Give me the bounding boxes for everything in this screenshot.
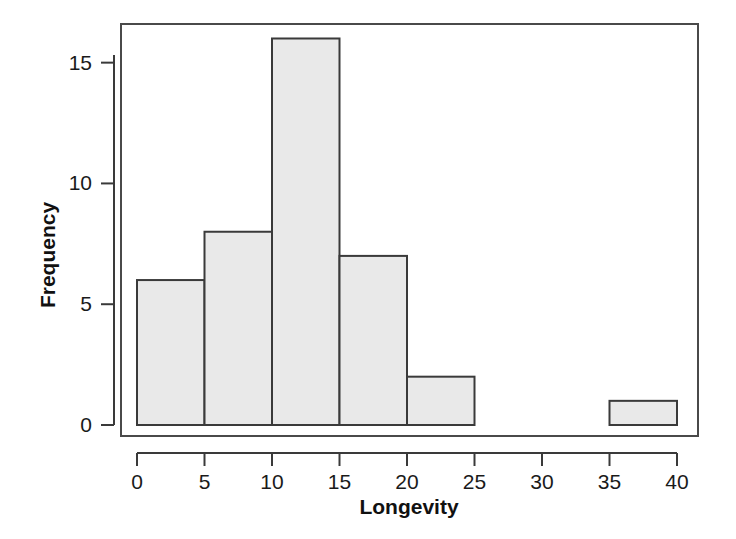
x-tick-label: 30 bbox=[530, 470, 553, 493]
histogram-bar bbox=[137, 280, 205, 425]
bars-group bbox=[137, 38, 677, 425]
y-tick-label: 0 bbox=[80, 413, 92, 436]
y-axis-title: Frequency bbox=[36, 202, 59, 309]
y-tick-label: 10 bbox=[69, 171, 92, 194]
chart-canvas: 0510152025303540 051015 Longevity Freque… bbox=[0, 0, 736, 539]
x-axis-title: Longevity bbox=[359, 495, 458, 518]
histogram-figure: 0510152025303540 051015 Longevity Freque… bbox=[0, 0, 736, 539]
x-tick-label: 20 bbox=[395, 470, 418, 493]
histogram-bar bbox=[610, 401, 678, 425]
histogram-bar bbox=[272, 38, 340, 425]
x-tick-label: 25 bbox=[463, 470, 486, 493]
x-tick-label: 15 bbox=[328, 470, 351, 493]
x-tick-label: 10 bbox=[260, 470, 283, 493]
x-tick-label: 35 bbox=[598, 470, 621, 493]
y-axis-ticks: 051015 bbox=[69, 51, 114, 436]
y-tick-label: 5 bbox=[80, 292, 92, 315]
y-tick-label: 15 bbox=[69, 51, 92, 74]
x-tick-label: 40 bbox=[665, 470, 688, 493]
x-axis-ticks: 0510152025303540 bbox=[131, 453, 689, 493]
x-tick-label: 5 bbox=[199, 470, 211, 493]
histogram-bar bbox=[340, 256, 408, 425]
histogram-bar bbox=[407, 377, 475, 425]
histogram-bar bbox=[205, 232, 273, 425]
x-tick-label: 0 bbox=[131, 470, 143, 493]
